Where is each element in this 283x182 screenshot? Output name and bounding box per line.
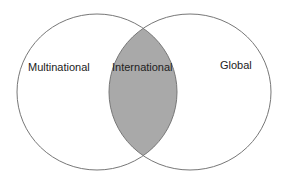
international-label: International	[112, 61, 173, 73]
global-label: Global	[220, 59, 252, 71]
intersection-region	[109, 14, 271, 170]
venn-diagram	[0, 0, 283, 182]
multinational-label: Multinational	[28, 61, 90, 73]
